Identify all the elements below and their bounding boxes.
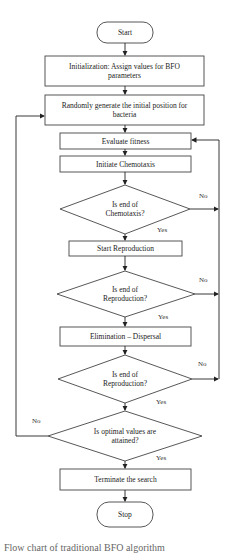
- start-label: Start: [97, 22, 153, 43]
- decision2-yes: Yes: [158, 313, 168, 321]
- chemotaxis-label: Initiate Chemotaxis: [60, 156, 191, 172]
- decision2-label: Is end of Reproduction?: [96, 282, 154, 306]
- decision4-no: No: [32, 417, 41, 425]
- reproduction-label: Start Reproduction: [69, 241, 182, 256]
- decision1-no: No: [199, 192, 208, 200]
- elimination-label: Elimination – Dispersal: [60, 327, 191, 346]
- evaluate-label: Evaluate fitness: [60, 133, 191, 149]
- decision3-label: Is end of Reproduction?: [96, 367, 154, 391]
- random-label: Randomly generate the initial position f…: [55, 95, 194, 125]
- stop-label: Stop: [97, 502, 153, 527]
- figure-caption: Flow chart of traditional BFO algorithm: [4, 542, 165, 553]
- decision1-yes: Yes: [157, 226, 167, 234]
- decision3-yes: Yes: [156, 398, 166, 406]
- decision4-label: Is optimal values are attained?: [88, 424, 162, 448]
- decision1-label: Is end of Chemotaxis?: [100, 197, 150, 221]
- init-label: Initialization: Assign values for BFO pa…: [55, 56, 194, 86]
- decision2-no: No: [199, 276, 208, 284]
- decision3-no: No: [198, 360, 207, 368]
- decision4-yes: Yes: [156, 454, 166, 462]
- terminate-label: Terminate the search: [60, 469, 191, 490]
